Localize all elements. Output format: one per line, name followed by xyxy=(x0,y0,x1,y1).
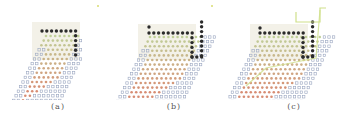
panel-a: (a) xyxy=(0,0,114,124)
caption-c: (c) xyxy=(274,102,314,111)
lattice-figure: (a) (b) (c) xyxy=(0,0,340,124)
lattice-diagram-c xyxy=(226,0,340,100)
lattice-diagram-a xyxy=(0,0,114,100)
caption-a: (a) xyxy=(38,102,78,111)
caption-b: (b) xyxy=(154,102,194,111)
panel-c: (c) xyxy=(226,0,340,124)
lattice-diagram-b xyxy=(112,0,226,100)
panel-b: (b) xyxy=(112,0,226,124)
